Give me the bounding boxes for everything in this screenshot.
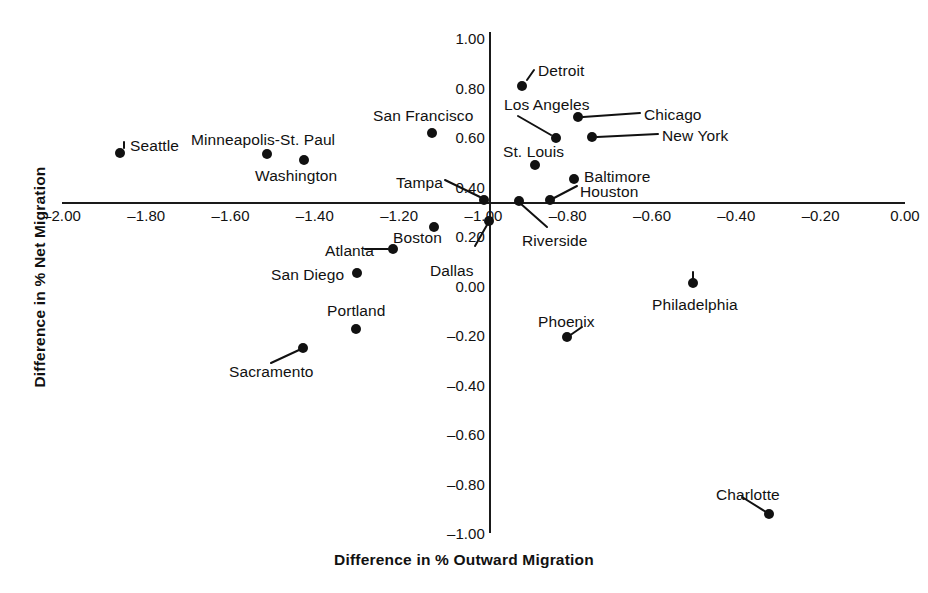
data-point-marker[interactable] <box>479 195 489 205</box>
data-point-marker[interactable] <box>573 112 583 122</box>
data-point-label: Philadelphia <box>652 296 738 314</box>
y-tick-label: –1.00 <box>447 525 485 542</box>
data-point-marker[interactable] <box>299 155 309 165</box>
data-point-marker[interactable] <box>262 149 272 159</box>
data-point-label: Boston <box>393 229 442 247</box>
data-point-marker[interactable] <box>484 216 494 226</box>
x-tick-label: –1.80 <box>127 207 165 224</box>
data-point-marker[interactable] <box>517 81 527 91</box>
y-tick-label: 0.20 <box>455 228 485 245</box>
data-point-marker[interactable] <box>427 128 437 138</box>
data-point-marker[interactable] <box>562 332 572 342</box>
data-point-label: Chicago <box>644 106 702 124</box>
x-tick-label: –1.60 <box>212 207 250 224</box>
x-tick-label: –0.80 <box>549 207 587 224</box>
data-point-marker[interactable] <box>514 196 524 206</box>
data-point-label: Phoenix <box>538 313 595 331</box>
data-point-label: Portland <box>327 302 386 320</box>
x-tick-label: –0.20 <box>802 207 840 224</box>
y-tick-label: 0.80 <box>455 79 485 96</box>
y-tick-label: 0.60 <box>455 129 485 146</box>
data-point-label: Dallas <box>430 262 474 280</box>
data-point-marker[interactable] <box>530 160 540 170</box>
x-tick-label: –0.40 <box>717 207 755 224</box>
y-tick-label: –0.60 <box>447 426 485 443</box>
data-point-label: Sacramento <box>229 363 314 381</box>
x-tick-label: –1.20 <box>380 207 418 224</box>
y-tick-label: –0.80 <box>447 475 485 492</box>
data-point-label: Seattle <box>130 137 179 155</box>
label-leader-line <box>554 186 577 198</box>
data-point-label: New York <box>662 127 728 145</box>
y-tick-label: –0.40 <box>447 376 485 393</box>
data-point-marker[interactable] <box>545 195 555 205</box>
data-point-label: Minneapolis-St. Paul <box>191 131 335 149</box>
data-point-marker[interactable] <box>352 268 362 278</box>
label-leader-line <box>597 134 658 137</box>
data-point-label: Houston <box>580 183 638 201</box>
y-tick-label: 0.40 <box>455 178 485 195</box>
data-point-label: Detroit <box>538 62 584 80</box>
data-point-label: Riverside <box>522 232 588 250</box>
label-leader-line <box>583 113 640 117</box>
y-tick-label: 1.00 <box>455 30 485 47</box>
scatter-plot-figure: –2.00–1.80–1.60–1.40–1.20–1.00–0.80–0.60… <box>0 0 928 593</box>
data-point-marker[interactable] <box>388 244 398 254</box>
data-point-label: Tampa <box>396 174 443 192</box>
data-point-marker[interactable] <box>351 324 361 334</box>
data-point-marker[interactable] <box>115 148 125 158</box>
label-leader-line <box>271 350 299 363</box>
data-point-marker[interactable] <box>764 509 774 519</box>
y-tick-label: –0.20 <box>447 327 485 344</box>
x-tick-label: –1.40 <box>296 207 334 224</box>
data-point-label: Atlanta <box>325 242 374 260</box>
data-point-marker[interactable] <box>569 174 579 184</box>
x-tick-label: –0.60 <box>633 207 671 224</box>
data-point-label: San Diego <box>271 266 344 284</box>
y-axis-title: Difference in % Net Migration <box>31 127 49 427</box>
data-point-marker[interactable] <box>298 343 308 353</box>
label-leader-line <box>521 204 547 227</box>
data-point-label: San Francisco <box>373 107 473 125</box>
data-point-label: St. Louis <box>503 143 564 161</box>
label-leader-line <box>527 70 534 80</box>
x-tick-label: 0.00 <box>890 207 920 224</box>
data-point-marker[interactable] <box>551 133 561 143</box>
x-axis-title: Difference in % Outward Migration <box>0 551 928 569</box>
data-point-marker[interactable] <box>688 278 698 288</box>
data-point-label: Charlotte <box>716 486 780 504</box>
data-point-marker[interactable] <box>587 132 597 142</box>
label-leader-line <box>518 116 551 135</box>
data-point-label: Washington <box>255 167 337 185</box>
